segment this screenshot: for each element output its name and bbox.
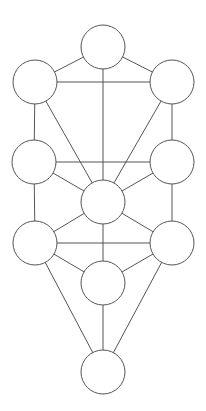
circle-node-n8 [13, 221, 57, 265]
circle-node-n3 [13, 60, 57, 104]
circle-node-n1 [81, 25, 125, 69]
circle-node-n10 [81, 350, 125, 394]
circle-node-n6 [81, 180, 125, 224]
circle-node-n9 [81, 261, 125, 305]
circle-node-n7 [150, 221, 194, 265]
tree-of-life-diagram [0, 0, 206, 411]
circle-node-n2 [150, 60, 194, 104]
circle-node-n4 [150, 140, 194, 184]
circle-node-n5 [12, 140, 56, 184]
